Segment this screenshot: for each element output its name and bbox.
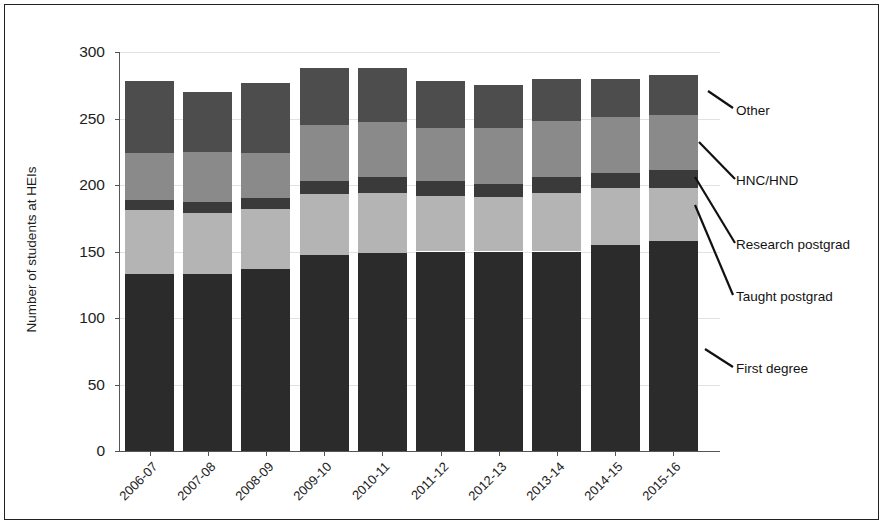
x-tick-mark [615, 451, 616, 456]
bar-segment-research-postgrad[interactable] [183, 202, 232, 213]
bar-segment-other[interactable] [474, 85, 523, 128]
x-tick-mark [266, 451, 267, 456]
bar-2006-07[interactable] [125, 52, 174, 451]
bar-segment-other[interactable] [183, 92, 232, 152]
x-tick-label-2011-12: 2011-12 [399, 459, 451, 511]
bar-segment-other[interactable] [532, 79, 581, 122]
bar-segment-other[interactable] [649, 75, 698, 115]
bar-segment-taught-postgrad[interactable] [474, 197, 523, 252]
bar-segment-research-postgrad[interactable] [358, 177, 407, 193]
y-tick-label: 250 [67, 111, 105, 127]
bar-segment-taught-postgrad[interactable] [532, 193, 581, 252]
bar-segment-first-degree[interactable] [474, 252, 523, 452]
bar-segment-taught-postgrad[interactable] [125, 210, 174, 274]
legend-label-taught-postgrad: Taught postgrad [736, 289, 833, 304]
bar-segment-other[interactable] [358, 68, 407, 123]
bar-segment-first-degree[interactable] [125, 274, 174, 451]
x-axis-line [119, 451, 720, 452]
bar-2008-09[interactable] [241, 52, 290, 451]
legend-label-other: Other [736, 103, 770, 118]
bar-2014-15[interactable] [591, 52, 640, 451]
chart-canvas: Number of students at HEIs 0501001502002… [5, 5, 880, 521]
bar-segment-taught-postgrad[interactable] [183, 213, 232, 274]
bar-segment-taught-postgrad[interactable] [241, 209, 290, 269]
bar-segment-hnc-hnd[interactable] [591, 117, 640, 173]
y-tick-label: 100 [67, 310, 105, 326]
legend-label-research-postgrad: Research postgrad [736, 237, 850, 252]
x-tick-label-2006-07: 2006-07 [108, 459, 160, 511]
bar-segment-hnc-hnd[interactable] [358, 122, 407, 177]
x-tick-mark [150, 451, 151, 456]
bar-segment-taught-postgrad[interactable] [591, 188, 640, 245]
x-tick-mark [499, 451, 500, 456]
bar-segment-first-degree[interactable] [591, 245, 640, 451]
y-tick-label: 0 [67, 443, 105, 459]
x-tick-label-2015-16: 2015-16 [632, 459, 684, 511]
chart-frame: Number of students at HEIs 0501001502002… [4, 4, 879, 520]
bar-segment-first-degree[interactable] [416, 252, 465, 452]
bar-segment-research-postgrad[interactable] [416, 181, 465, 196]
x-tick-label-2009-10: 2009-10 [283, 459, 335, 511]
bar-segment-research-postgrad[interactable] [241, 198, 290, 209]
x-tick-mark [208, 451, 209, 456]
y-tick-label: 50 [67, 377, 105, 393]
x-tick-mark [324, 451, 325, 456]
bar-segment-taught-postgrad[interactable] [300, 194, 349, 255]
x-tick-label-2010-11: 2010-11 [341, 459, 393, 511]
bar-segment-other[interactable] [591, 79, 640, 118]
bar-2010-11[interactable] [358, 52, 407, 451]
x-tick-mark [441, 451, 442, 456]
x-tick-label-2014-15: 2014-15 [574, 459, 626, 511]
bar-segment-hnc-hnd[interactable] [474, 128, 523, 184]
bar-segment-hnc-hnd[interactable] [241, 153, 290, 198]
bar-2011-12[interactable] [416, 52, 465, 451]
bar-segment-first-degree[interactable] [241, 269, 290, 451]
x-tick-mark [673, 451, 674, 456]
x-tick-mark [557, 451, 558, 456]
y-axis-line [119, 52, 120, 452]
bar-segment-first-degree[interactable] [183, 274, 232, 451]
bar-segment-first-degree[interactable] [649, 241, 698, 451]
bar-segment-other[interactable] [416, 81, 465, 128]
bar-segment-hnc-hnd[interactable] [183, 152, 232, 203]
bar-segment-research-postgrad[interactable] [300, 181, 349, 194]
bar-segment-taught-postgrad[interactable] [416, 196, 465, 252]
y-tick-label: 300 [67, 44, 105, 60]
bar-segment-research-postgrad[interactable] [591, 173, 640, 188]
bar-segment-other[interactable] [300, 68, 349, 125]
bar-2009-10[interactable] [300, 52, 349, 451]
y-axis-title: Number of students at HEIs [18, 125, 44, 385]
x-tick-label-2008-09: 2008-09 [225, 459, 277, 511]
bar-segment-other[interactable] [125, 81, 174, 153]
x-tick-mark [382, 451, 383, 456]
bar-segment-taught-postgrad[interactable] [358, 193, 407, 253]
legend-label-hnc-hnd: HNC/HND [736, 173, 798, 188]
bar-segment-first-degree[interactable] [358, 253, 407, 451]
bar-segment-hnc-hnd[interactable] [300, 125, 349, 181]
x-tick-label-2012-13: 2012-13 [458, 459, 510, 511]
bar-segment-hnc-hnd[interactable] [125, 153, 174, 200]
x-tick-label-2013-14: 2013-14 [516, 459, 568, 511]
bar-segment-first-degree[interactable] [532, 252, 581, 452]
bar-segment-first-degree[interactable] [300, 255, 349, 451]
bar-2012-13[interactable] [474, 52, 523, 451]
legend-label-first-degree: First degree [736, 361, 808, 376]
bar-segment-hnc-hnd[interactable] [532, 121, 581, 177]
y-tick-label: 200 [67, 177, 105, 193]
y-tick-label: 150 [67, 244, 105, 260]
bar-segment-taught-postgrad[interactable] [649, 188, 698, 241]
bar-segment-hnc-hnd[interactable] [649, 115, 698, 171]
bar-segment-research-postgrad[interactable] [125, 200, 174, 211]
bar-segment-research-postgrad[interactable] [532, 177, 581, 193]
x-tick-label-2007-08: 2007-08 [167, 459, 219, 511]
bar-segment-other[interactable] [241, 83, 290, 153]
bar-segment-research-postgrad[interactable] [649, 170, 698, 187]
bar-2007-08[interactable] [183, 52, 232, 451]
bar-segment-research-postgrad[interactable] [474, 184, 523, 197]
bar-segment-hnc-hnd[interactable] [416, 128, 465, 181]
bar-2013-14[interactable] [532, 52, 581, 451]
bar-2015-16[interactable] [649, 52, 698, 451]
